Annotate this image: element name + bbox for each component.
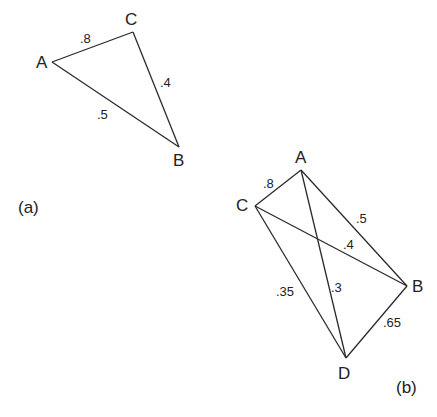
edge-weight-label: .5 [356, 211, 367, 226]
diagram-b-quadrilateral: .8.5.4.35.3.65 ACBD (b) [236, 148, 423, 397]
diagram-b-caption: (b) [396, 378, 417, 397]
diagram-a-vertex-labels: ACB [36, 10, 184, 170]
vertex-label-d: D [338, 364, 350, 383]
diagram-a-caption: (a) [18, 198, 39, 217]
edge-a-d [301, 170, 346, 358]
graph-diagram-canvas: .8.4.5 ACB (a) .8.5.4.35.3.65 ACBD (b) [0, 0, 437, 417]
vertex-label-c: C [236, 196, 248, 215]
diagram-a-triangle: .8.4.5 ACB (a) [18, 10, 184, 217]
edge-weight-label: .35 [276, 284, 294, 299]
vertex-label-a: A [295, 148, 307, 167]
edge-weight-label: .5 [97, 107, 108, 122]
vertex-label-a: A [36, 53, 48, 72]
edge-weight-label: .8 [263, 176, 274, 191]
edge-c-b [255, 206, 407, 286]
edge-a-c [52, 32, 133, 62]
edge-weight-label: .8 [80, 31, 91, 46]
edge-c-b [133, 32, 179, 147]
edge-c-a [255, 170, 301, 206]
edge-weight-label: .3 [331, 280, 342, 295]
vertex-label-b: B [173, 151, 184, 170]
diagram-a-edge-labels: .8.4.5 [80, 31, 171, 122]
edge-weight-label: .4 [160, 75, 171, 90]
edge-weight-label: .4 [343, 237, 354, 252]
vertex-label-b: B [412, 277, 423, 296]
vertex-label-c: C [125, 10, 137, 29]
edge-a-b [301, 170, 407, 286]
edge-weight-label: .65 [383, 315, 401, 330]
